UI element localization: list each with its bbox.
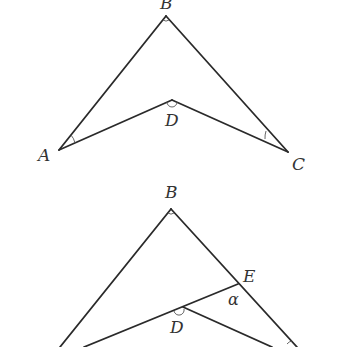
label-d-bottom: D [169,317,184,337]
segment-ad [59,100,172,150]
angle-mark-c-2 [287,341,292,344]
label-e-bottom: E [242,266,256,286]
segment-bc-2 [171,209,297,347]
figure-1: B A D C [36,0,305,174]
label-alpha: α [228,290,239,309]
figure-2: B E α D [60,182,297,347]
label-a-top: A [36,145,50,165]
segment-bc [166,16,288,152]
label-b-top: B [159,0,173,13]
segment-ae-2 [84,284,238,347]
label-b-bottom: B [164,182,178,202]
segment-ab-2 [60,209,171,347]
angle-mark-d [167,102,177,107]
angle-mark-b-2 [168,213,174,214]
angle-mark-a [71,135,75,143]
angle-mark-c [265,131,266,139]
segment-ab [59,16,166,150]
segment-dc-2 [183,307,272,347]
segment-dc [172,100,288,152]
geometry-diagram: B A D C B E α D [0,0,344,347]
angle-mark-b [163,20,169,21]
label-c-top: C [292,154,305,174]
label-d-top: D [164,110,179,130]
